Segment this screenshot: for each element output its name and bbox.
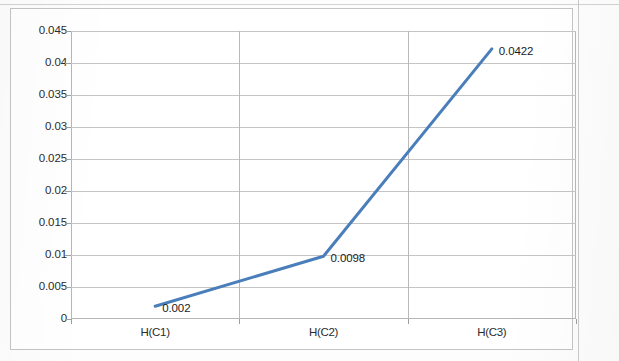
x-axis-tick-mark xyxy=(408,319,409,324)
plot-border-right xyxy=(575,31,576,319)
x-axis-tick-mark xyxy=(576,319,577,324)
x-axis-tick-mark xyxy=(239,319,240,324)
x-axis-tick-mark xyxy=(71,319,72,324)
data-point-label: 0.0422 xyxy=(499,46,534,58)
x-axis-tick-label: H(C3) xyxy=(432,327,552,339)
chart-frame: 0.0450.040.0350.030.0250.020.0150.010.00… xyxy=(10,8,573,350)
x-axis-tick-label: H(C1) xyxy=(95,327,215,339)
data-point-label: 0.002 xyxy=(162,303,190,315)
document-right-margin-rule xyxy=(578,0,579,361)
data-point-label: 0.0098 xyxy=(331,253,366,265)
series-polyline xyxy=(155,49,492,306)
x-axis-tick-label: H(C2) xyxy=(264,327,384,339)
chart-page: 0.0450.040.0350.030.0250.020.0150.010.00… xyxy=(0,0,619,361)
document-top-rule xyxy=(0,4,619,5)
series-line xyxy=(11,9,574,351)
